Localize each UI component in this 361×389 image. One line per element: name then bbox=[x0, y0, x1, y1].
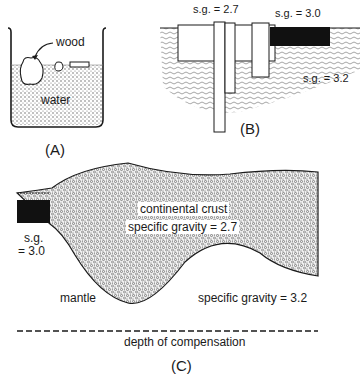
wood-flat bbox=[70, 62, 89, 67]
oceanic-sg-line1: s.g. bbox=[24, 232, 43, 244]
block-medium bbox=[225, 23, 235, 93]
block-dense bbox=[270, 27, 330, 46]
oceanic-sg-line2: = 3.0 bbox=[18, 245, 45, 257]
wood-small bbox=[55, 62, 63, 71]
oceanic-crust-block bbox=[17, 200, 50, 223]
crust-label-line2: specific gravity = 2.7 bbox=[126, 220, 239, 234]
crust-label-line1: continental crust bbox=[138, 202, 229, 216]
mantle-sg-label: specific gravity = 3.2 bbox=[198, 292, 307, 304]
wood-large bbox=[20, 58, 43, 85]
wood-arrow bbox=[35, 43, 53, 57]
sg-3-2-label: s.g. = 3.2 bbox=[303, 73, 349, 84]
wood-label: wood bbox=[56, 36, 85, 48]
panel-a-caption: (A) bbox=[45, 142, 65, 157]
sg-3-0-label: s.g. = 3.0 bbox=[275, 8, 321, 19]
isostasy-diagram bbox=[0, 0, 361, 389]
panel-c-caption: (C) bbox=[171, 358, 192, 373]
block-short bbox=[252, 23, 269, 77]
panel-b-caption: (B) bbox=[240, 121, 260, 136]
sg-2-7-label: s.g. = 2.7 bbox=[193, 4, 239, 15]
compensation-label: depth of compensation bbox=[124, 336, 245, 348]
water-label: water bbox=[41, 94, 70, 106]
block-tall bbox=[214, 22, 225, 132]
panel-c-crust bbox=[17, 163, 318, 331]
mantle-label: mantle bbox=[60, 292, 96, 304]
